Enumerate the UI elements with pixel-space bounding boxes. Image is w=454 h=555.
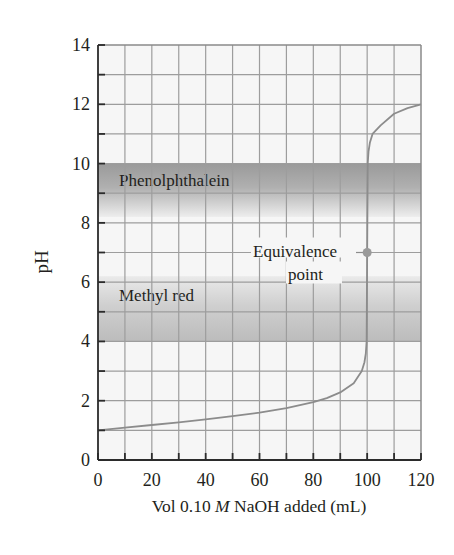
x-tick-label: 80: [304, 470, 322, 490]
x-axis-label: Vol 0.10 M NaOH added (mL): [152, 496, 367, 516]
y-tick-label: 4: [81, 331, 90, 351]
x-tick-label: 100: [354, 470, 381, 490]
y-tick-label: 12: [72, 94, 90, 114]
x-tick-label: 60: [251, 470, 269, 490]
y-tick-label: 6: [81, 272, 90, 292]
y-tick-label: 0: [81, 450, 90, 470]
chart-canvas: PhenolphthaleinMethyl red Equivalencepoi…: [0, 0, 454, 555]
titration-chart: PhenolphthaleinMethyl red Equivalencepoi…: [0, 0, 454, 555]
band-label: Methyl red: [119, 286, 195, 305]
x-tick-label: 0: [94, 470, 103, 490]
x-tick-label: 120: [408, 470, 435, 490]
annotation-label-line2: point: [288, 265, 323, 284]
x-tick-label: 40: [197, 470, 215, 490]
y-axis-label: pH: [31, 250, 52, 274]
band-label: Phenolphthalein: [119, 171, 230, 190]
annotation-label-line1: Equivalence: [253, 242, 337, 261]
equivalence-point-marker: [363, 248, 372, 257]
y-tick-label: 8: [81, 213, 90, 233]
x-tick-label: 20: [143, 470, 161, 490]
y-tick-label: 10: [72, 154, 90, 174]
y-tick-label: 14: [72, 35, 90, 55]
y-tick-label: 2: [81, 391, 90, 411]
